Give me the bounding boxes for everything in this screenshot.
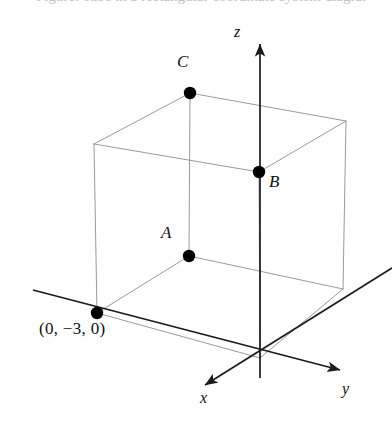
cube-edge-vertical-front xyxy=(189,93,190,256)
cube-edge-vertical-right xyxy=(343,121,346,289)
point-label-C: C xyxy=(177,53,188,70)
cube-edge-top-back-left xyxy=(94,144,259,172)
cube-edge-bottom-back-right xyxy=(260,289,343,358)
axis-label-x: x xyxy=(200,390,207,406)
coordinate-point-label: (0, −3, 0) xyxy=(39,320,105,337)
marked-points-group xyxy=(91,87,265,319)
cube-edge-vertical-left xyxy=(94,144,97,313)
cube-edge-top-back-right xyxy=(259,121,346,172)
axis-label-y: y xyxy=(342,381,349,397)
point-C-dot xyxy=(184,87,196,99)
cube-edge-top-front-left xyxy=(94,93,190,144)
cube-edge-bottom-front-right xyxy=(189,256,343,289)
point-A-dot xyxy=(183,250,195,262)
point-origin-marker-dot xyxy=(91,307,103,319)
x-axis-line xyxy=(205,268,392,385)
axis-label-z: z xyxy=(234,24,240,40)
cube-wireframe xyxy=(94,93,346,358)
point-B-dot xyxy=(253,166,265,178)
diagram-canvas xyxy=(0,0,392,429)
cube-edge-bottom-front-left xyxy=(97,256,189,313)
cube-edge-bottom-back-left xyxy=(97,313,260,358)
coordinate-diagram: Figure: cube in a rectangular coordinate… xyxy=(0,0,392,429)
point-label-A: A xyxy=(161,224,171,241)
point-label-B: B xyxy=(269,173,279,190)
cube-edge-top-front-right xyxy=(190,93,346,121)
